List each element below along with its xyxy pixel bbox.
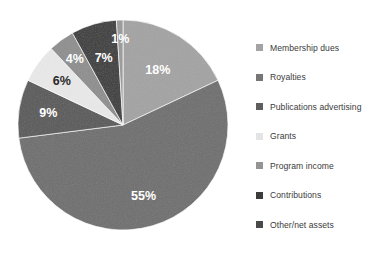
legend-swatch-icon (256, 103, 263, 110)
legend-item[interactable]: Publications advertising (256, 92, 377, 122)
legend-item-label: Other/net assets (270, 220, 334, 230)
legend-item-label: Publications advertising (270, 102, 362, 112)
legend-swatch-icon (256, 221, 263, 228)
legend-swatch-icon (256, 162, 263, 169)
pie-slice-label: 9% (39, 106, 57, 120)
legend-swatch-icon (256, 44, 263, 51)
legend-item[interactable]: Membership dues (256, 33, 377, 63)
legend-item[interactable]: Contributions (256, 181, 377, 211)
pie-slice-label: 18% (145, 63, 170, 77)
legend-swatch-icon (256, 192, 263, 199)
chart-legend: Membership duesRoyaltiesPublications adv… (256, 33, 377, 240)
pie-slice-label: 4% (66, 52, 84, 66)
legend-item[interactable]: Other/net assets (256, 210, 377, 240)
legend-item-label: Grants (270, 131, 296, 141)
legend-item[interactable]: Grants (256, 122, 377, 152)
pie-slices (18, 20, 228, 230)
legend-item[interactable]: Royalties (256, 63, 377, 93)
legend-item[interactable]: Program income (256, 151, 377, 181)
pie-chart-figure: 18%55%9%6%4%7%1% Membership duesRoyaltie… (0, 0, 377, 257)
legend-swatch-icon (256, 133, 263, 140)
pie-slice-label: 1% (111, 32, 129, 46)
pie-slice-label: 6% (53, 74, 71, 88)
legend-swatch-icon (256, 74, 263, 81)
pie-slice-label: 7% (95, 51, 113, 65)
legend-item-label: Contributions (270, 190, 321, 200)
legend-item-label: Royalties (270, 72, 306, 82)
legend-item-label: Membership dues (270, 43, 339, 53)
legend-item-label: Program income (270, 161, 334, 171)
pie-slice-label: 55% (131, 189, 156, 203)
